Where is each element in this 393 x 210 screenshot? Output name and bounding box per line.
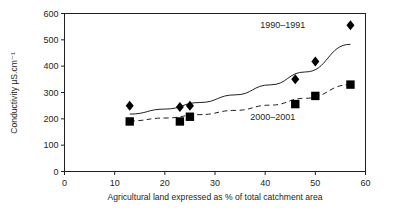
data-point-marker — [311, 92, 319, 100]
x-tick-label: 50 — [310, 178, 320, 188]
x-tick-label: 10 — [110, 178, 120, 188]
series-label-1990-1991: 1990–1991 — [260, 20, 305, 30]
x-tick-label: 0 — [62, 178, 67, 188]
data-point-marker — [346, 80, 354, 88]
y-tick-label: 200 — [43, 114, 58, 124]
x-tick-label: 30 — [210, 178, 220, 188]
y-tick-label: 500 — [43, 35, 58, 45]
data-point-marker — [291, 100, 299, 108]
x-tick-label: 60 — [360, 178, 370, 188]
scatter-plot: 0100200300400500600 0102030405060 1990–1… — [0, 0, 393, 210]
y-tick-label: 600 — [43, 9, 58, 19]
data-point-marker — [186, 113, 194, 121]
y-axis-title: Conductivity µS.cm⁻¹ — [9, 52, 19, 134]
chart-figure: 0100200300400500600 0102030405060 1990–1… — [0, 0, 393, 210]
y-tick-label: 0 — [53, 167, 58, 177]
data-point-marker — [176, 117, 184, 125]
y-tick-label: 400 — [43, 61, 58, 71]
data-point-marker — [126, 117, 134, 125]
x-axis-title: Agricultural land expressed as % of tota… — [108, 192, 323, 202]
x-tick-label: 20 — [160, 178, 170, 188]
x-tick-label: 40 — [260, 178, 270, 188]
y-tick-label: 100 — [43, 140, 58, 150]
series-label-2000-2001: 2000–2001 — [250, 112, 295, 122]
y-tick-label: 300 — [43, 88, 58, 98]
figure-background — [0, 0, 393, 210]
